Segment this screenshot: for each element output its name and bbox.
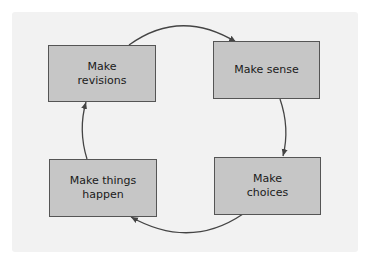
node-label-line2: revisions xyxy=(78,74,127,88)
arrow-happen-to-revisions xyxy=(82,102,87,159)
node-label-line1: Make things xyxy=(70,174,137,188)
node-make-choices: Make choices xyxy=(214,157,321,215)
arrow-sense-to-choices xyxy=(280,99,286,156)
node-make-things-happen: Make things happen xyxy=(49,159,157,217)
node-label-line2: happen xyxy=(70,188,137,202)
node-label-line1: Make xyxy=(247,172,288,186)
node-label-line1: Make sense xyxy=(234,63,298,77)
cycle-arrows xyxy=(0,0,366,263)
node-label-line2: choices xyxy=(247,186,288,200)
node-make-revisions: Make revisions xyxy=(48,45,156,102)
node-make-sense: Make sense xyxy=(213,41,320,99)
node-label-line1: Make xyxy=(78,60,127,74)
